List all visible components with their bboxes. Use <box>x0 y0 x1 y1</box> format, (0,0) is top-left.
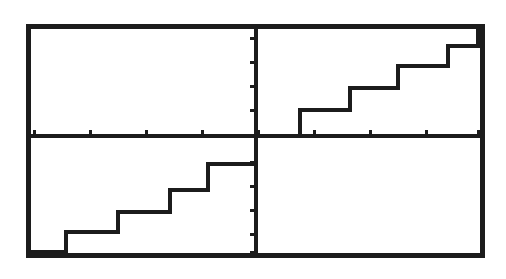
step-function-graph <box>0 0 506 279</box>
page-background <box>0 0 506 279</box>
screenshot-root <box>0 0 506 279</box>
graphing-calculator-screen <box>0 0 506 279</box>
